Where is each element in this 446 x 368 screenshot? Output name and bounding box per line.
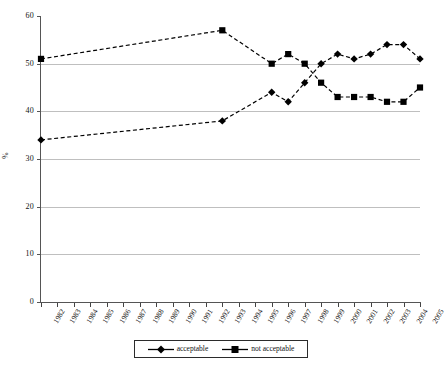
x-tick-label: 1992: [217, 308, 232, 325]
x-tick: [288, 303, 289, 307]
data-point-square: [351, 94, 357, 100]
diamond-marker-icon: [148, 345, 174, 354]
data-point-square: [318, 80, 324, 86]
x-tick-label: 1990: [184, 308, 199, 325]
series-line: [41, 30, 420, 102]
data-point-diamond: [219, 117, 226, 124]
x-tick-label: 1994: [250, 308, 265, 325]
data-point-square: [368, 94, 374, 100]
y-tick: [37, 16, 41, 17]
legend-label-not-acceptable: not acceptable: [251, 345, 294, 353]
x-axis-line: [40, 302, 421, 303]
data-point-diamond: [285, 98, 292, 105]
x-tick: [354, 303, 355, 307]
x-tick-label: 1993: [233, 308, 248, 325]
x-tick: [156, 303, 157, 307]
x-tick-label: 1986: [118, 308, 133, 325]
y-tick-label: 0: [0, 298, 34, 306]
x-tick-label: 1988: [151, 308, 166, 325]
legend-label-acceptable: acceptable: [177, 345, 209, 353]
x-tick-label: 1987: [134, 308, 149, 325]
data-point-diamond: [334, 50, 341, 57]
chart-legend: acceptable not acceptable: [134, 340, 308, 358]
y-tick: [37, 207, 41, 208]
data-point-square: [384, 99, 390, 105]
y-tick: [37, 111, 41, 112]
x-tick: [123, 303, 124, 307]
x-tick-label: 2005: [431, 308, 446, 325]
x-tick-label: 1999: [332, 308, 347, 325]
x-tick: [189, 303, 190, 307]
series-acceptable: [37, 41, 423, 144]
x-tick-label: 1984: [85, 308, 100, 325]
data-point-square: [285, 51, 291, 57]
x-tick: [255, 303, 256, 307]
x-tick-label: 2002: [382, 308, 397, 325]
data-point-diamond: [301, 79, 308, 86]
x-tick-label: 2003: [398, 308, 413, 325]
series-line: [41, 45, 420, 140]
gridline: [41, 159, 420, 160]
y-tick: [37, 159, 41, 160]
data-point-square: [400, 99, 406, 105]
x-tick-label: 1998: [316, 308, 331, 325]
y-tick-label: 50: [0, 60, 34, 68]
x-tick: [420, 303, 421, 307]
square-marker-icon: [222, 345, 248, 354]
data-point-square: [219, 27, 225, 33]
x-tick-label: 1996: [283, 308, 298, 325]
x-tick-label: 1989: [167, 308, 182, 325]
y-tick-label: 40: [0, 107, 34, 115]
data-point-square: [335, 94, 341, 100]
x-tick-label: 1985: [101, 308, 116, 325]
data-point-diamond: [268, 89, 275, 96]
gridline: [41, 111, 420, 112]
legend-item-acceptable: acceptable: [148, 345, 209, 354]
x-tick: [321, 303, 322, 307]
y-tick-label: 10: [0, 250, 34, 258]
data-point-square: [38, 56, 44, 62]
gridline: [41, 254, 420, 255]
x-tick-label: 1997: [299, 308, 314, 325]
x-tick: [222, 303, 223, 307]
data-point-diamond: [400, 41, 407, 48]
gridline: [41, 64, 420, 65]
y-tick-label: 20: [0, 203, 34, 211]
x-tick-label: 1995: [266, 308, 281, 325]
x-tick-label: 2001: [365, 308, 380, 325]
x-tick: [57, 303, 58, 307]
y-tick-label: 60: [0, 12, 34, 20]
y-tick: [37, 64, 41, 65]
data-point-square: [417, 84, 423, 90]
data-point-diamond: [383, 41, 390, 48]
y-tick: [37, 254, 41, 255]
gridline: [41, 207, 420, 208]
x-tick: [41, 303, 42, 307]
x-tick-label: 1983: [69, 308, 84, 325]
x-tick: [90, 303, 91, 307]
y-axis-title: %: [1, 152, 10, 158]
x-tick: [387, 303, 388, 307]
x-tick-label: 2000: [349, 308, 364, 325]
x-tick-label: 1991: [200, 308, 215, 325]
legend-item-not-acceptable: not acceptable: [222, 345, 294, 354]
x-tick-label: 1982: [52, 308, 67, 325]
data-point-diamond: [350, 55, 357, 62]
data-point-diamond: [416, 55, 423, 62]
data-point-diamond: [37, 136, 44, 143]
series-not-acceptable: [38, 27, 423, 105]
x-tick-label: 2004: [415, 308, 430, 325]
data-point-diamond: [367, 50, 374, 57]
